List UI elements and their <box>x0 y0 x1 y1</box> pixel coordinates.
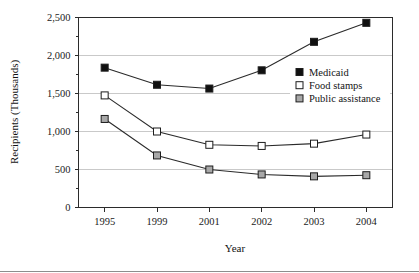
series-line-public-assistance <box>105 119 367 176</box>
data-point-medicaid-2001 <box>206 85 213 92</box>
x-tick-label: 1999 <box>147 216 168 227</box>
data-point-food-stamps-2003 <box>311 140 318 147</box>
data-point-public-assistance-1995 <box>101 115 108 122</box>
x-tick-label: 2004 <box>356 216 378 227</box>
data-point-food-stamps-1999 <box>154 128 161 135</box>
data-point-medicaid-2002 <box>258 67 265 74</box>
y-tick-label: 500 <box>55 164 71 175</box>
line-chart: 05001,0001,5002,0002,500 199519992001200… <box>0 0 419 273</box>
data-point-public-assistance-1999 <box>154 152 161 159</box>
data-point-medicaid-2004 <box>363 19 370 26</box>
data-point-public-assistance-2004 <box>363 172 370 179</box>
y-tick-label: 2,500 <box>47 12 71 23</box>
y-tick-label: 2,000 <box>47 50 71 61</box>
data-point-medicaid-1995 <box>101 64 108 71</box>
data-point-food-stamps-2004 <box>363 131 370 138</box>
legend-marker-food-stamps <box>296 82 303 89</box>
y-tick-label: 1,500 <box>47 88 71 99</box>
y-tick-label: 0 <box>65 202 70 213</box>
bottom-divider-rule <box>0 271 419 272</box>
legend-label-medicaid: Medicaid <box>309 67 349 78</box>
legend-label-food-stamps: Food stamps <box>309 80 362 91</box>
y-tick-labels: 05001,0001,5002,0002,500 <box>47 12 71 213</box>
data-point-food-stamps-2002 <box>258 142 265 149</box>
data-point-public-assistance-2001 <box>206 166 213 173</box>
x-tick-label: 1995 <box>94 216 115 227</box>
x-tick-label: 2003 <box>304 216 325 227</box>
x-tick-label: 2001 <box>199 216 220 227</box>
data-point-food-stamps-1995 <box>101 92 108 99</box>
legend-marker-public-assistance <box>296 95 303 102</box>
data-point-medicaid-1999 <box>154 81 161 88</box>
data-point-public-assistance-2003 <box>311 173 318 180</box>
data-point-public-assistance-2002 <box>258 171 265 178</box>
legend-label-public-assistance: Public assistance <box>309 93 381 104</box>
figure-container: 05001,0001,5002,0002,500 199519992001200… <box>0 0 419 273</box>
legend-marker-medicaid <box>296 69 303 76</box>
y-tick-label: 1,000 <box>47 126 71 137</box>
y-axis-title: Recipients (Thousands) <box>8 60 21 165</box>
x-tick-label: 2002 <box>251 216 272 227</box>
x-tick-labels: 199519992001200220032004 <box>94 216 377 227</box>
data-point-medicaid-2003 <box>311 38 318 45</box>
x-tick-marks <box>105 208 367 212</box>
x-axis-title: Year <box>225 242 246 254</box>
legend[interactable]: MedicaidFood stampsPublic assistance <box>290 64 390 106</box>
plot-frame <box>79 18 393 208</box>
data-point-food-stamps-2001 <box>206 141 213 148</box>
